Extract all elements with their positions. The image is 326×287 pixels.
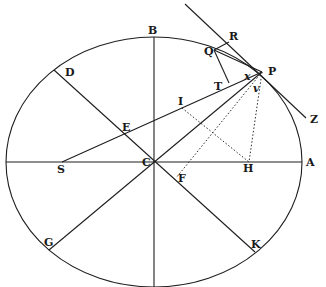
label-point-C: C <box>142 156 151 169</box>
label-point-F: F <box>178 172 186 185</box>
label-point-A: A <box>305 156 315 169</box>
label-point-B: B <box>148 24 157 37</box>
diagram-canvas: ABCDEFGHIKPQRSTZxv <box>0 0 326 287</box>
label-point-D: D <box>65 66 75 79</box>
label-point-S: S <box>57 163 65 176</box>
ellipse-diagram: ABCDEFGHIKPQRSTZxv <box>0 0 326 287</box>
label-point-G: G <box>44 236 53 249</box>
label-point-v: v <box>253 82 260 95</box>
label-point-I: I <box>178 95 183 108</box>
line-QT <box>214 50 229 83</box>
label-point-Q: Q <box>204 45 214 58</box>
label-point-H: H <box>243 162 253 175</box>
point-labels: ABCDEFGHIKPQRSTZxv <box>44 24 318 251</box>
label-point-x: x <box>243 70 251 83</box>
dotted-line-IH <box>182 108 249 162</box>
label-point-Z: Z <box>310 113 318 126</box>
label-point-E: E <box>122 121 130 134</box>
label-point-R: R <box>229 30 239 43</box>
label-point-K: K <box>251 238 261 251</box>
tangent-line-RPZ <box>185 4 306 118</box>
label-point-P: P <box>268 65 276 78</box>
diameter-GP-line <box>49 72 262 250</box>
label-point-T: T <box>214 80 223 93</box>
line-QR <box>214 42 229 50</box>
